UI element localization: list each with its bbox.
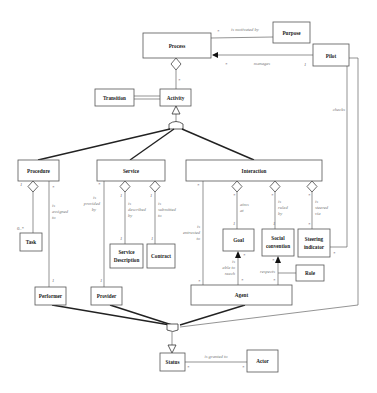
class-status[interactable]: Status xyxy=(160,353,185,371)
label-is-able-to-reach-3: reach xyxy=(225,271,236,276)
class-social-convention-label-1: Social xyxy=(271,235,285,241)
class-contract-label: Contract xyxy=(151,253,171,259)
mult-steering-via: * xyxy=(308,222,311,227)
mult-manages-process: * xyxy=(225,62,228,67)
gen-agent xyxy=(180,305,245,325)
label-is-submitted-to-1: is xyxy=(158,201,161,206)
label-respects: respects xyxy=(260,269,275,274)
class-performer[interactable]: Performer xyxy=(35,287,66,305)
class-interaction-label: Interaction xyxy=(242,168,267,174)
mult-status-granted: * xyxy=(187,365,190,370)
label-is-ruled-by-3: by xyxy=(278,211,283,216)
label-is-entrusted-to-2: entrusted xyxy=(183,230,201,235)
diamond-service-contract xyxy=(150,181,160,192)
mult-service-described-2: 1 xyxy=(120,236,122,241)
class-provider[interactable]: Provider xyxy=(91,287,122,305)
class-agent-label: Agent xyxy=(235,292,249,298)
label-is-steered-via-2: steered xyxy=(315,205,329,210)
label-is-motivated-by: is motivated by xyxy=(231,27,260,32)
class-transition[interactable]: Transition xyxy=(95,89,134,106)
mult-interaction-entrusted: * xyxy=(197,183,200,188)
class-actor[interactable]: Actor xyxy=(247,350,278,372)
label-is-described-by-1: is xyxy=(128,201,131,206)
label-is-submitted-to-3: to xyxy=(158,213,162,218)
mult-interaction-steering: * xyxy=(308,193,311,198)
class-goal-label: Goal xyxy=(233,237,244,243)
assoc-checks xyxy=(323,66,347,247)
class-process-label: Process xyxy=(169,43,186,49)
class-goal[interactable]: Goal xyxy=(223,229,254,251)
mult-interaction-social: * xyxy=(271,193,274,198)
mult-social-respects: * xyxy=(272,258,275,263)
class-social-convention[interactable]: Social convention xyxy=(262,229,294,256)
mult-procedure-task-0star: 0..* xyxy=(17,226,25,231)
class-service-label: Service xyxy=(123,168,140,174)
class-provider-label: Provider xyxy=(97,293,117,299)
label-is-steered-via-3: via xyxy=(315,211,321,216)
gen-performer xyxy=(52,305,170,325)
class-transition-label: Transition xyxy=(103,95,126,101)
mult-interaction-goal: * xyxy=(233,193,236,198)
class-interaction[interactable]: Interaction xyxy=(186,160,322,181)
class-steering-indicator-label-2: indicator xyxy=(304,244,325,250)
label-is-able-to-reach-2: able to xyxy=(222,265,235,270)
mult-agent-entrusted: * xyxy=(198,279,201,284)
label-is-ruled-by-1: is xyxy=(278,199,281,204)
class-social-convention-label-2: convention xyxy=(266,243,290,249)
label-is-entrusted-to-3: to xyxy=(196,236,200,241)
class-pilot[interactable]: Pilot xyxy=(313,44,349,66)
label-aims-at-2: at xyxy=(240,208,244,213)
mult-goal-aims: 1 xyxy=(233,221,235,226)
status-gen-triangle xyxy=(168,345,176,353)
class-task[interactable]: Task xyxy=(20,233,42,251)
label-is-assigned-to-1: is xyxy=(52,203,55,208)
class-status-label: Status xyxy=(166,359,180,365)
label-is-submitted-to-2: submitted xyxy=(158,207,177,212)
label-manages: manages xyxy=(254,61,271,66)
label-is-provided-by-2: provided xyxy=(83,201,101,206)
status-gen-hub xyxy=(167,324,178,332)
class-procedure[interactable]: Procedure xyxy=(18,160,59,181)
class-service-description-label-2: Description xyxy=(114,257,140,263)
class-purpose[interactable]: Purpose xyxy=(273,22,310,43)
class-task-label: Task xyxy=(26,239,37,245)
class-steering-indicator[interactable]: Steering indicator xyxy=(298,229,330,257)
class-role[interactable]: Role xyxy=(296,265,324,281)
class-procedure-label: Procedure xyxy=(27,168,51,174)
class-performer-label: Performer xyxy=(39,293,63,299)
mult-procedure-task-1: 1 xyxy=(20,182,22,187)
label-is-described-by-2: described xyxy=(128,207,147,212)
label-aims-at-1: aims xyxy=(240,202,249,207)
label-is-ruled-by-2: ruled xyxy=(278,205,288,210)
mult-actor-granted: * xyxy=(242,365,245,370)
class-actor-label: Actor xyxy=(256,358,269,364)
class-contract[interactable]: Contract xyxy=(147,244,175,268)
diamond-interaction-steering xyxy=(307,181,317,192)
gen-procedure xyxy=(38,129,170,160)
class-service-description[interactable]: Service Description xyxy=(110,244,143,268)
manages-arrowhead xyxy=(212,52,218,58)
class-agent[interactable]: Agent xyxy=(191,285,292,305)
class-activity[interactable]: Activity xyxy=(160,89,191,106)
uml-class-diagram: Process Purpose Pilot Transition Activit… xyxy=(0,0,377,393)
diamond-process xyxy=(171,58,181,70)
mult-goal-reach: * xyxy=(243,253,246,258)
mult-procedure-assigned: * xyxy=(52,185,55,190)
class-role-label: Role xyxy=(305,270,316,276)
mult-agent-reach: * xyxy=(241,278,244,283)
label-checks: checks xyxy=(333,107,345,112)
mult-process-activity: * xyxy=(178,78,181,83)
class-service[interactable]: Service xyxy=(97,160,165,181)
gen-interaction xyxy=(182,129,254,160)
mult-social-ruled: 1 xyxy=(273,221,275,226)
assoc-is-motivated-by xyxy=(211,37,273,38)
label-is-steered-via-1: is xyxy=(315,199,318,204)
mult-agent-respects: * xyxy=(273,278,276,283)
label-is-assigned-to-3: to xyxy=(52,215,56,220)
class-activity-label: Activity xyxy=(167,95,185,101)
class-service-description-label-1: Service xyxy=(118,249,135,255)
label-is-provided-by-1: is xyxy=(93,195,96,200)
class-process[interactable]: Process xyxy=(143,33,211,58)
mult-process-purpose: * xyxy=(217,29,220,34)
diamond-interaction-social xyxy=(270,181,280,192)
